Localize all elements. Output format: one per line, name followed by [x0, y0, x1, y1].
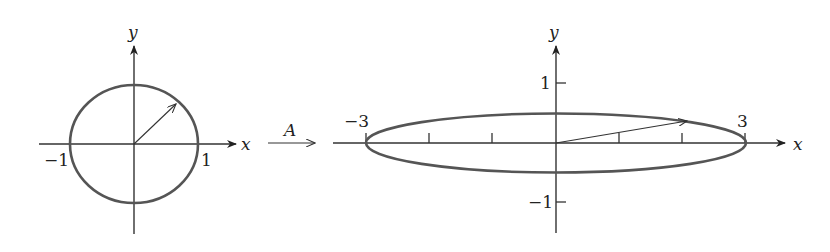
- transform-arrow: A: [268, 120, 315, 143]
- transform-label: A: [282, 120, 296, 140]
- right-tick-3: 3: [737, 111, 748, 131]
- left-y-label: y: [127, 22, 138, 42]
- linear-transform-diagram: x y −1 1 A x y −3 3 1 −1: [0, 0, 830, 252]
- right-tick-yneg1: −1: [528, 192, 553, 212]
- left-tick-neg1: −1: [44, 150, 69, 170]
- left-vector-arrow: [134, 104, 176, 144]
- left-tick-1: 1: [201, 150, 212, 170]
- right-tick-y1: 1: [540, 73, 551, 93]
- left-x-label: x: [241, 134, 251, 154]
- right-x-label: x: [793, 134, 803, 154]
- right-y-label: y: [548, 22, 559, 42]
- right-vector-arrow: [556, 121, 687, 143]
- right-tick-neg3: −3: [344, 111, 369, 131]
- left-plot: x y −1 1: [39, 22, 251, 234]
- right-plot: x y −3 3 1 −1: [333, 22, 803, 233]
